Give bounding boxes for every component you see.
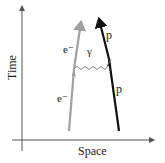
photon-wavy-line — [75, 59, 111, 70]
electron-outgoing-line — [74, 22, 81, 69]
time-axis-label: Time — [5, 55, 19, 80]
electron-incoming-arrow-icon — [72, 69, 76, 76]
proton-in-label: p — [116, 82, 122, 96]
feynman-diagram: e⁻ γ p e⁻ p Space Time — [0, 0, 165, 163]
photon-label: γ — [86, 45, 92, 57]
electron-out-label: e⁻ — [63, 43, 74, 55]
space-axis-label: Space — [78, 144, 107, 158]
proton-out-label: p — [106, 28, 112, 42]
electron-in-label: e⁻ — [57, 92, 68, 104]
electron-incoming-line — [69, 69, 74, 131]
